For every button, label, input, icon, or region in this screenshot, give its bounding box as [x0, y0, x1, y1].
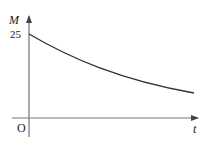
origin-label: O	[17, 121, 26, 135]
x-axis-label: t	[193, 122, 197, 136]
y-tick-label: 25	[10, 28, 22, 40]
decay-curve	[29, 34, 194, 93]
chart: M 25 O t	[0, 0, 209, 146]
y-axis-label: M	[8, 13, 20, 27]
